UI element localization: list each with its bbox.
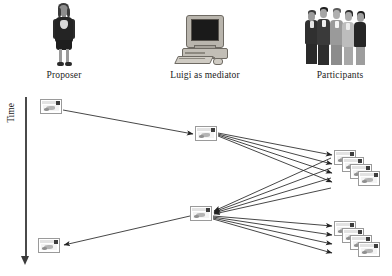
actor-label-participants: Participants [288, 70, 392, 80]
edge-proposal-to-mediator [63, 110, 193, 134]
message-window-icon[interactable] [358, 242, 380, 257]
edge-final-result [64, 216, 190, 245]
time-axis-label: Time [6, 93, 16, 133]
diagram-canvas: Proposer Luigi as mediator Participants … [0, 0, 392, 276]
edge-broadcast-1-d [218, 136, 332, 182]
message-window-icon[interactable] [40, 99, 62, 114]
down-arrow-icon [21, 256, 29, 265]
message-stack-participants-1[interactable] [334, 150, 380, 188]
people-group-icon [304, 4, 376, 67]
message-window-icon[interactable] [195, 126, 217, 141]
edge-broadcast-1-c [218, 135, 332, 173]
edge-broadcast-1-b [218, 134, 332, 164]
edge-reply-1-b [214, 168, 331, 212]
message-window-icon[interactable] [38, 238, 60, 253]
edge-reply-1-d [214, 188, 331, 214]
edge-reply-1-c [214, 178, 331, 213]
edge-broadcast-1-a [218, 133, 332, 155]
edge-broadcast-2-b [213, 217, 332, 235]
edge-broadcast-2-a [213, 216, 332, 226]
message-stack-participants-2[interactable] [334, 221, 380, 259]
edge-broadcast-2-d [213, 219, 332, 253]
time-axis-line [25, 97, 27, 260]
edge-broadcast-2-c [213, 218, 332, 244]
message-window-icon[interactable] [190, 206, 212, 221]
businesswoman-figure-icon [44, 3, 84, 67]
edge-reply-1-a [214, 158, 331, 211]
desktop-computer-icon [172, 12, 234, 67]
actor-label-proposer: Proposer [0, 70, 128, 80]
message-window-icon[interactable] [358, 171, 380, 186]
actor-label-mediator: Luigi as mediator [140, 70, 270, 80]
